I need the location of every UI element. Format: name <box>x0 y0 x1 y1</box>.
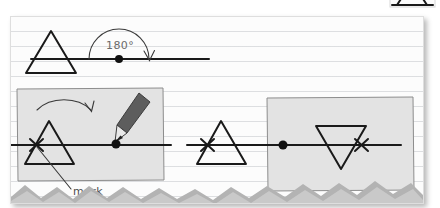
triangle-upright-top <box>26 31 76 73</box>
rotation-pivot-dot-top <box>115 55 123 63</box>
rotation-pivot-dot-right <box>279 141 288 150</box>
pencil-contact-dot <box>112 140 121 149</box>
step-rotation-overview: 180° <box>26 29 209 73</box>
screenshot-root: 180° <box>0 0 440 208</box>
worksheet-card: 180° <box>10 16 424 204</box>
step-marking: mark <box>11 88 171 198</box>
step-result <box>247 97 414 191</box>
angle-label: 180° <box>106 39 134 52</box>
diagram-canvas: 180° <box>11 17 423 203</box>
clipped-figure-svg <box>389 0 436 8</box>
clipped-figure-fragment <box>389 0 436 8</box>
